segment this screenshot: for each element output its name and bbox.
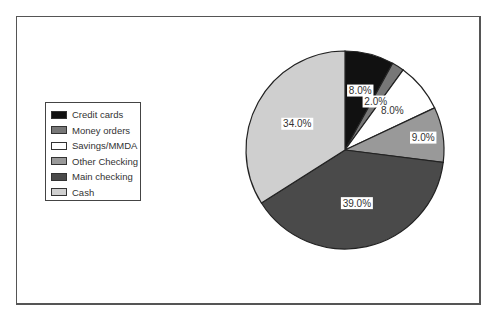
legend-swatch [51, 173, 67, 181]
legend-item-main-checking: Main checking [51, 169, 140, 185]
legend-item-other-checking: Other Checking [51, 154, 140, 170]
legend-label: Cash [72, 187, 94, 198]
legend-label: Main checking [72, 171, 133, 182]
data-label: 34.0% [283, 118, 311, 129]
legend-item-money-orders: Money orders [51, 123, 140, 139]
legend-item-credit-cards: Credit cards [51, 107, 140, 123]
data-label: 8.0% [349, 85, 372, 96]
legend-label: Credit cards [72, 109, 123, 120]
legend-label: Money orders [72, 125, 130, 136]
legend-swatch [51, 188, 67, 196]
data-label: 8.0% [381, 105, 404, 116]
legend-item-savings-mmda: Savings/MMDA [51, 138, 140, 154]
legend-swatch [51, 111, 67, 119]
legend-swatch [51, 142, 67, 150]
data-label: 39.0% [343, 198, 371, 209]
legend-label: Other Checking [72, 156, 138, 167]
legend-swatch [51, 157, 67, 165]
data-label: 9.0% [412, 132, 435, 143]
legend-swatch [51, 126, 67, 134]
legend: Credit cards Money orders Savings/MMDA O… [45, 102, 141, 201]
legend-item-cash: Cash [51, 185, 140, 201]
legend-label: Savings/MMDA [72, 140, 137, 151]
